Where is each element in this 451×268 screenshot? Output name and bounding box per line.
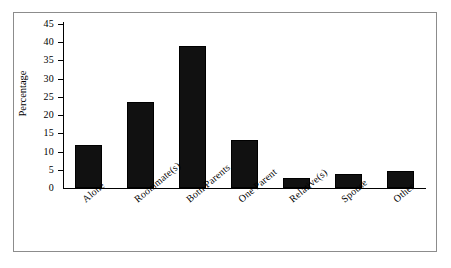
y-axis-tick-labels: 454035302520151050 (30, 0, 54, 268)
bar (127, 102, 154, 188)
y-axis-tick-label: 35 (32, 55, 54, 65)
y-axis-tick-label: 25 (32, 92, 54, 102)
y-axis-tick-label: 0 (32, 183, 54, 193)
y-axis-tick-label: 30 (32, 74, 54, 84)
y-axis-tick-label: 40 (32, 37, 54, 47)
bar (179, 46, 206, 188)
y-axis-tick-label: 10 (32, 147, 54, 157)
y-axis-tick-label: 45 (32, 19, 54, 29)
y-axis-title: Percentage (17, 59, 28, 129)
y-axis-tick-label: 15 (32, 128, 54, 138)
y-axis-tick-label: 20 (32, 110, 54, 120)
y-axis-tick-label: 5 (32, 165, 54, 175)
figure: Percentage 454035302520151050 AloneRoomm… (0, 0, 451, 268)
plot-area (63, 20, 425, 192)
